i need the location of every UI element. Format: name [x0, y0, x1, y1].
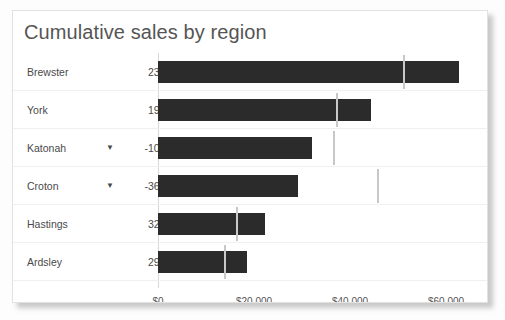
chart-card: Cumulative sales by region Brewster23%Yo…	[12, 10, 488, 303]
row-label-ardsley: Ardsley	[27, 256, 62, 268]
bar-brewster[interactable]	[158, 61, 459, 83]
row-label-brewster: Brewster	[27, 66, 68, 78]
row-label-york: York	[27, 104, 48, 116]
reference-marker-york	[336, 93, 338, 127]
bar-croton[interactable]	[158, 175, 298, 197]
reference-marker-croton	[377, 169, 379, 203]
bar-chart-plot-area: Brewster23%York19%Katonah▼-10%Croton▼-36…	[13, 53, 487, 303]
triangle-down-icon: ▼	[106, 144, 114, 152]
bar-katonah[interactable]	[158, 137, 312, 159]
page-title: Cumulative sales by region	[24, 21, 267, 44]
bar-hastings[interactable]	[158, 213, 265, 235]
bar-york[interactable]	[158, 99, 371, 121]
table-row[interactable]: York19%	[13, 91, 487, 129]
row-label-hastings: Hastings	[27, 218, 68, 230]
x-axis-tick-label: $0	[152, 296, 163, 303]
x-axis-tick-label: $40,000	[332, 296, 368, 303]
screenshot-viewport: Cumulative sales by region Brewster23%Yo…	[0, 0, 505, 320]
table-row[interactable]: Hastings32%	[13, 205, 487, 243]
reference-marker-ardsley	[224, 245, 226, 279]
reference-marker-hastings	[236, 207, 238, 241]
reference-marker-brewster	[403, 55, 405, 89]
x-axis: $0$20,000$40,000$60,000	[13, 296, 487, 303]
reference-marker-katonah	[333, 131, 335, 165]
bar-ardsley[interactable]	[158, 251, 247, 273]
row-label-katonah: Katonah	[27, 142, 66, 154]
row-label-croton: Croton	[27, 180, 59, 192]
table-row[interactable]: Brewster23%	[13, 53, 487, 91]
x-axis-tick-label: $60,000	[428, 296, 464, 303]
table-row[interactable]: Ardsley29%	[13, 243, 487, 281]
table-row[interactable]: Katonah▼-10%	[13, 129, 487, 167]
table-row[interactable]: Croton▼-36%	[13, 167, 487, 205]
triangle-down-icon: ▼	[106, 182, 114, 190]
x-axis-tick-label: $20,000	[236, 296, 272, 303]
